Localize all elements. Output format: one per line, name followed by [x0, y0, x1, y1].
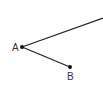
- point-b-dot: [68, 65, 72, 69]
- point-a-dot: [20, 45, 24, 49]
- ray-from-a: [22, 18, 103, 47]
- point-a-label: A: [12, 42, 19, 53]
- point-b-label: B: [67, 71, 74, 82]
- segment-ab: [22, 47, 70, 67]
- angle-diagram: A B: [0, 0, 103, 90]
